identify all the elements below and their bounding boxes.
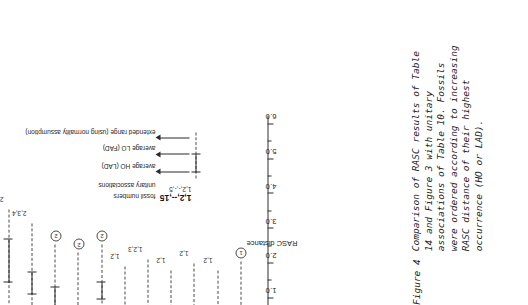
legend-lo-ho-range-sample: [196, 155, 197, 172]
legend-entry-label: average HO (LAD): [102, 162, 156, 169]
figure-plot-area: -1.00.01.02.03.04.05.06.0RASC distance24…: [0, 0, 410, 305]
legend-pointer-arrow: [160, 154, 190, 155]
figure-caption-area: Figure 4 Comparison of RASC results of T…: [410, 0, 528, 305]
chart-legend: 1,2,--,151,2,-,-,5average HO (LAD)averag…: [0, 105, 306, 305]
legend-pointer-arrow: [160, 137, 190, 138]
legend-entry-label: fossil numbers: [114, 193, 156, 200]
range-chart: -1.00.01.02.03.04.05.06.0RASC distance24…: [0, 105, 306, 305]
rotated-plot-stage: -1.00.01.02.03.04.05.06.0RASC distance24…: [0, 105, 306, 305]
legend-sample-fossil-numbers: 1,2,--,15: [160, 193, 192, 203]
legend-entry-label: average LO (FAD): [103, 145, 156, 152]
figure-caption-text: Comparison of RASC results of Table 14 a…: [410, 36, 486, 251]
caption-rotator: Figure 4 Comparison of RASC results of T…: [410, 0, 528, 305]
legend-sample-unitary-associations: 1,2,-,-,5: [169, 186, 191, 193]
figure-number: Figure 4: [410, 259, 422, 305]
legend-ho-lad-marker: [192, 171, 201, 172]
legend-pointer-arrow: [160, 171, 190, 172]
legend-lo-fad-marker: [192, 154, 201, 155]
legend-entry-label: unitary associations: [98, 182, 155, 189]
legend-entry-label: extended range (using normality assumpti…: [25, 128, 155, 135]
